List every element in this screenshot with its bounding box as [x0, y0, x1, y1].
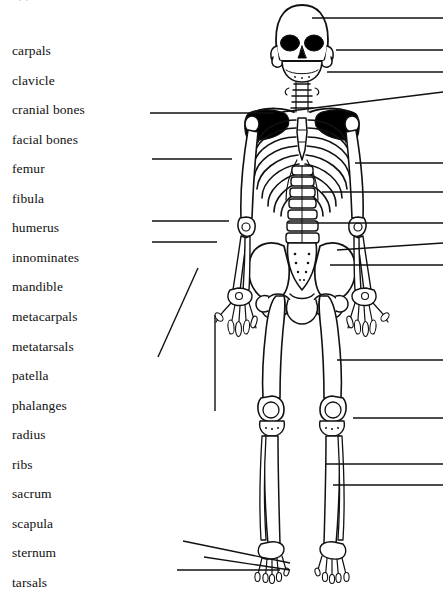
lumbar-vertebrae	[286, 166, 319, 243]
skeleton-figure	[213, 5, 390, 584]
right-lower-limb	[314, 295, 349, 583]
left-upper-limb	[213, 130, 258, 337]
worksheet-page: · · carpalsclaviclecranial bonesfacial b…	[0, 0, 445, 597]
leader-line-right-8	[337, 243, 443, 250]
right-upper-limb	[346, 130, 391, 337]
skeleton-diagram	[0, 0, 445, 597]
leader-line-left-5	[158, 268, 198, 357]
left-lower-limb	[255, 295, 290, 583]
mandible-jaw	[282, 62, 322, 82]
